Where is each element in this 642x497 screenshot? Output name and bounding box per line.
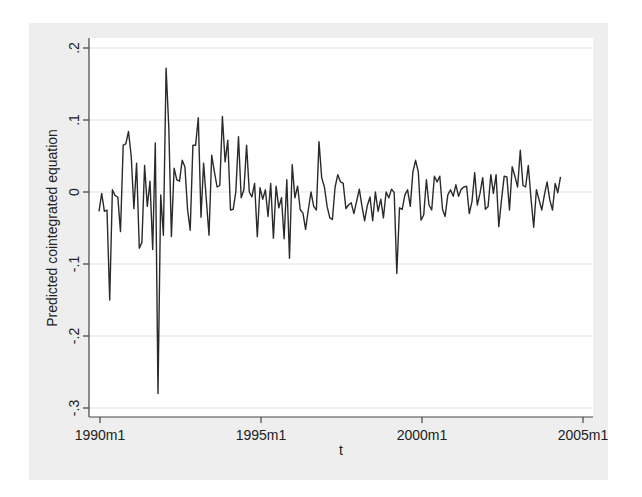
y-tick-label: .1 xyxy=(66,114,82,126)
x-axis-title: t xyxy=(339,442,343,458)
x-tick-label: 2000m1 xyxy=(397,427,448,443)
x-tick-label: 1990m1 xyxy=(75,427,126,443)
y-tick-label: .2 xyxy=(66,42,82,54)
y-tick-label: -.1 xyxy=(66,256,82,273)
y-tick-label: -.2 xyxy=(66,328,82,345)
y-tick-label: 0 xyxy=(66,188,82,196)
y-axis-title: Predicted cointegrated equation xyxy=(44,129,60,327)
chart: .2.10-.1-.2-.3 1990m11995m12000m12005m1 … xyxy=(0,0,642,497)
y-tick-label: -.3 xyxy=(66,400,82,417)
x-tick-label: 1995m1 xyxy=(236,427,287,443)
plot-area xyxy=(89,38,593,417)
x-tick-label: 2005m1 xyxy=(558,427,609,443)
